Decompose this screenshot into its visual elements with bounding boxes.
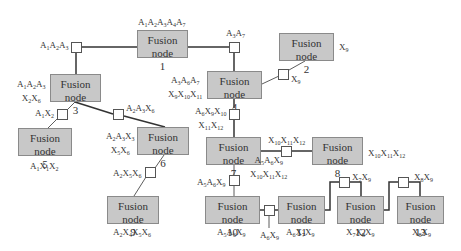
separator-4-7-label: A6X9X10X11X12 xyxy=(195,106,227,134)
separator-7-10-label: A5A6X9 xyxy=(197,177,226,191)
separator-3-5-label: A1X2 xyxy=(35,108,54,122)
separator-1-4-label: A3A7 xyxy=(226,28,245,42)
fusion-node-1: Fusion node 1 xyxy=(137,30,188,58)
separator-7-8-label: X10X11X12 xyxy=(268,135,305,149)
node-13-variables: X8X9 xyxy=(412,227,431,241)
separator-3-6-label: A2A3X6 xyxy=(126,103,155,117)
node-4-variables: A3A6A7X9X10X11 xyxy=(168,75,202,103)
separator-6-9-label: A2X5X6 xyxy=(113,168,142,182)
separator-10-11 xyxy=(264,205,275,216)
node-title: Fusion node xyxy=(138,131,188,157)
node-9-variables: A2X4X5X6 xyxy=(113,227,151,241)
fusion-node-6: Fusion node 6 xyxy=(137,127,189,155)
fusion-node-11: Fusion node 11 xyxy=(278,196,325,224)
separator-12-13 xyxy=(398,177,409,188)
separator-3-6 xyxy=(113,109,124,120)
node-title: Fusion node xyxy=(338,200,383,226)
node-5-variables: A1X1X2 xyxy=(30,161,59,175)
node-title: Fusion node xyxy=(108,200,158,226)
fusion-node-4: Fusion node 4 xyxy=(207,71,262,99)
separator-6-9 xyxy=(145,167,156,178)
node-title: Fusion node xyxy=(398,200,443,226)
node-title: Fusion node xyxy=(206,200,259,226)
separator-11-12 xyxy=(339,177,350,188)
separator-1-3 xyxy=(71,42,82,53)
junction-tree-diagram: Fusion node 1 Fusion node 2 Fusion node … xyxy=(0,0,461,251)
fusion-node-10: Fusion node 10 xyxy=(205,196,260,224)
node-title: Fusion node xyxy=(280,37,333,63)
node-8-variables: X10X11X12 xyxy=(368,148,405,162)
node-number: 1 xyxy=(138,60,187,73)
separator-11-12-label: X7X9 xyxy=(352,172,371,186)
separator-7-10 xyxy=(229,175,240,186)
node-title: Fusion node xyxy=(208,75,261,101)
node-3-variables: A1A2A3X2X6 xyxy=(17,79,46,107)
node-2-variables: X9 xyxy=(339,42,349,56)
fusion-node-2: Fusion node 2 xyxy=(279,33,334,61)
separator-10-11-label: A6X9 xyxy=(260,230,279,244)
fusion-node-8: Fusion node 8 xyxy=(312,137,363,165)
fusion-node-5: Fusion node 5 xyxy=(18,128,72,156)
fusion-node-12: Fusion node 12 xyxy=(337,196,384,224)
separator-1-3-label: A1A2A3 xyxy=(40,40,69,54)
separator-4-2-label: X9 xyxy=(291,74,301,88)
node-1-variables: A1A2A3A4A7 xyxy=(138,17,186,31)
separator-12-13-label: X8X9 xyxy=(414,172,433,186)
node-title: Fusion node xyxy=(19,132,71,158)
fusion-node-9: Fusion node 9 xyxy=(107,196,159,224)
fusion-node-3: Fusion node 3 xyxy=(50,74,101,102)
node-title: Fusion node xyxy=(313,141,362,167)
fusion-node-13: Fusion node 13 xyxy=(397,196,444,224)
separator-4-7 xyxy=(229,109,240,120)
node-title: Fusion node xyxy=(279,200,324,226)
node-10-variables: A5A6X9 xyxy=(217,227,246,241)
separator-4-2 xyxy=(278,69,289,80)
node-title: Fusion node xyxy=(138,34,187,60)
separator-1-4 xyxy=(229,42,240,53)
node-6-variables: A2A3X3X5X6 xyxy=(106,131,135,159)
node-11-variables: A6X7X9 xyxy=(286,227,315,241)
separator-3-5 xyxy=(57,109,68,120)
node-title: Fusion node xyxy=(51,78,100,104)
node-7-variables: A5A6X9X10X11X12 xyxy=(250,155,287,183)
node-12-variables: X7X8X9 xyxy=(346,227,375,241)
